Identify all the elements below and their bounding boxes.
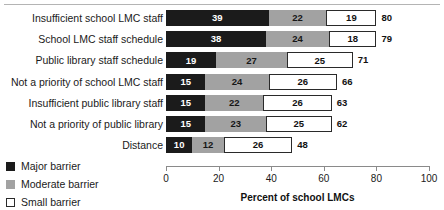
legend-swatch-icon bbox=[6, 198, 15, 207]
axis-tick bbox=[324, 166, 325, 171]
row-total: 63 bbox=[337, 95, 348, 111]
row-total: 48 bbox=[297, 137, 308, 153]
chart-row: Not a priority of public library15232562 bbox=[0, 116, 444, 132]
bar-segment-moderate-barrier: 23 bbox=[205, 116, 265, 132]
x-axis-title: Percent of school LMCs bbox=[166, 192, 429, 203]
legend-label: Major barrier bbox=[21, 161, 81, 172]
x-axis-line bbox=[166, 166, 429, 167]
stacked-bar: 152325 bbox=[166, 116, 332, 132]
chart-row: Insufficient school LMC staff39221980 bbox=[0, 10, 444, 26]
category-label: Not a priority of school LMC staff bbox=[11, 74, 163, 90]
row-total: 62 bbox=[337, 116, 348, 132]
top-divider bbox=[4, 4, 440, 5]
bar-segment-moderate-barrier: 22 bbox=[269, 10, 327, 26]
bar-segment-small-barrier: 18 bbox=[329, 31, 376, 47]
chart-row: Insufficient public library staff1522266… bbox=[0, 95, 444, 111]
stacked-bar: 152426 bbox=[166, 74, 337, 90]
stacked-bar: 392219 bbox=[166, 10, 376, 26]
segment-value: 27 bbox=[246, 56, 257, 66]
segment-value: 22 bbox=[292, 13, 303, 23]
bar-segment-small-barrier: 26 bbox=[269, 74, 337, 90]
category-label: Public library staff schedule bbox=[35, 52, 163, 68]
axis-tick bbox=[429, 166, 430, 171]
legend-item[interactable]: Moderate barrier bbox=[6, 176, 99, 192]
category-label: Not a priority of public library bbox=[30, 116, 163, 132]
bar-segment-major-barrier: 19 bbox=[166, 52, 216, 68]
bar-segment-small-barrier: 25 bbox=[266, 116, 332, 132]
segment-value: 26 bbox=[253, 140, 264, 150]
bar-segment-major-barrier: 15 bbox=[166, 116, 205, 132]
bar-segment-major-barrier: 15 bbox=[166, 74, 205, 90]
bar-segment-moderate-barrier: 27 bbox=[216, 52, 287, 68]
axis-tick bbox=[219, 166, 220, 171]
axis-tick-label: 0 bbox=[163, 173, 169, 184]
legend-swatch-icon bbox=[6, 180, 15, 189]
row-total: 71 bbox=[358, 52, 369, 68]
segment-value: 39 bbox=[212, 13, 223, 23]
bar-segment-small-barrier: 19 bbox=[326, 10, 376, 26]
axis-tick-label: 80 bbox=[371, 173, 382, 184]
segment-value: 15 bbox=[180, 119, 191, 129]
segment-value: 19 bbox=[346, 13, 357, 23]
bar-segment-small-barrier: 26 bbox=[224, 137, 292, 153]
segment-value: 24 bbox=[292, 34, 303, 44]
segment-value: 38 bbox=[211, 34, 222, 44]
segment-value: 24 bbox=[232, 77, 243, 87]
segment-value: 25 bbox=[315, 56, 326, 66]
stacked-bar: 192725 bbox=[166, 52, 353, 68]
bar-segment-small-barrier: 26 bbox=[263, 95, 331, 111]
axis-tick-label: 20 bbox=[213, 173, 224, 184]
bar-segment-small-barrier: 25 bbox=[287, 52, 353, 68]
category-label: School LMC staff schedule bbox=[38, 31, 163, 47]
bar-segment-moderate-barrier: 22 bbox=[205, 95, 263, 111]
bar-segment-major-barrier: 15 bbox=[166, 95, 205, 111]
segment-value: 26 bbox=[297, 77, 308, 87]
legend-label: Small barrier bbox=[21, 197, 81, 208]
stacked-bar: 382418 bbox=[166, 31, 376, 47]
bar-segment-moderate-barrier: 24 bbox=[266, 31, 329, 47]
segment-value: 19 bbox=[186, 56, 197, 66]
bar-segment-major-barrier: 10 bbox=[166, 137, 192, 153]
bar-segment-moderate-barrier: 24 bbox=[205, 74, 268, 90]
category-label: Insufficient public library staff bbox=[29, 95, 163, 111]
segment-value: 18 bbox=[347, 34, 358, 44]
segment-value: 15 bbox=[180, 98, 191, 108]
bar-segment-major-barrier: 38 bbox=[166, 31, 266, 47]
row-total: 79 bbox=[381, 31, 392, 47]
chart-legend: Major barrierModerate barrierSmall barri… bbox=[6, 158, 99, 210]
category-label: Distance bbox=[122, 137, 163, 153]
chart-row: School LMC staff schedule38241879 bbox=[0, 31, 444, 47]
axis-tick-label: 40 bbox=[266, 173, 277, 184]
legend-swatch-icon bbox=[6, 162, 15, 171]
segment-value: 23 bbox=[230, 119, 241, 129]
axis-tick bbox=[376, 166, 377, 171]
bar-segment-major-barrier: 39 bbox=[166, 10, 269, 26]
bar-segment-moderate-barrier: 12 bbox=[192, 137, 224, 153]
stacked-bar: 152226 bbox=[166, 95, 332, 111]
stacked-bar-chart: Insufficient school LMC staff39221980Sch… bbox=[0, 0, 444, 210]
category-label: Insufficient school LMC staff bbox=[32, 10, 163, 26]
stacked-bar: 101226 bbox=[166, 137, 292, 153]
axis-tick-label: 60 bbox=[318, 173, 329, 184]
axis-tick bbox=[166, 166, 167, 171]
segment-value: 26 bbox=[292, 98, 303, 108]
axis-tick-label: 100 bbox=[421, 173, 438, 184]
legend-item[interactable]: Major barrier bbox=[6, 158, 99, 174]
axis-tick bbox=[271, 166, 272, 171]
segment-value: 12 bbox=[203, 140, 214, 150]
segment-value: 15 bbox=[180, 77, 191, 87]
row-total: 66 bbox=[342, 74, 353, 90]
segment-value: 10 bbox=[174, 140, 185, 150]
segment-value: 25 bbox=[294, 119, 305, 129]
row-total: 80 bbox=[381, 10, 392, 26]
chart-row: Distance10122648 bbox=[0, 137, 444, 153]
chart-row: Not a priority of school LMC staff152426… bbox=[0, 74, 444, 90]
segment-value: 22 bbox=[229, 98, 240, 108]
chart-row: Public library staff schedule19272571 bbox=[0, 52, 444, 68]
legend-item[interactable]: Small barrier bbox=[6, 194, 99, 210]
legend-label: Moderate barrier bbox=[21, 179, 99, 190]
